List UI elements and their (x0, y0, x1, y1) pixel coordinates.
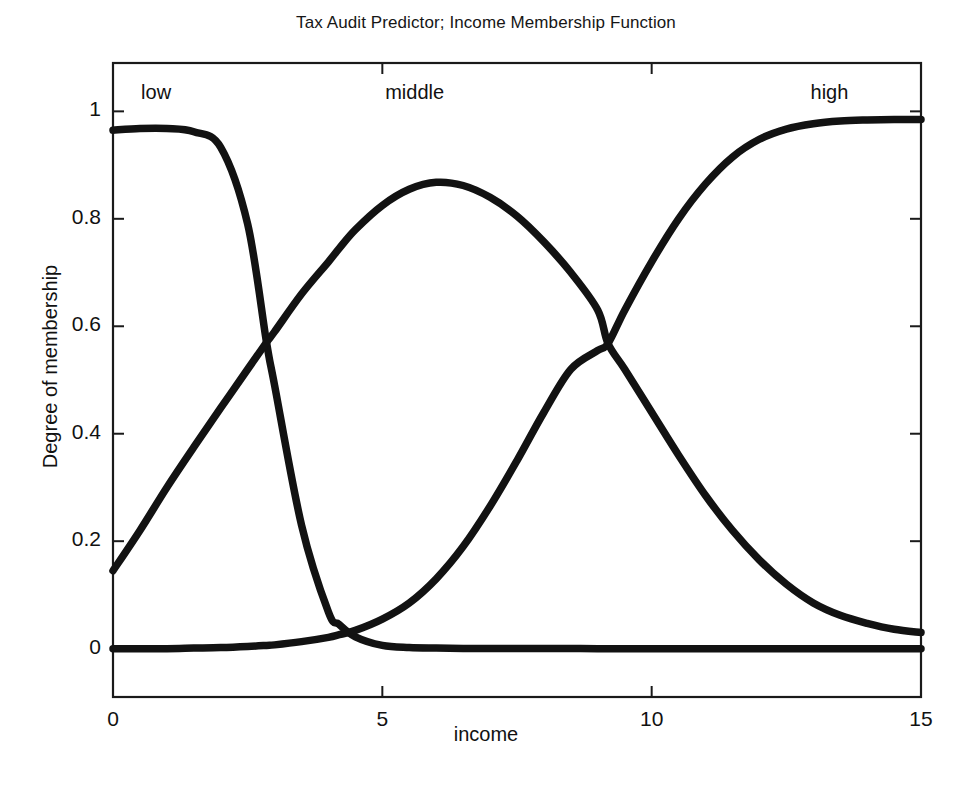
y-tick-label: 0.2 (13, 527, 101, 551)
curve-middle (113, 182, 921, 632)
x-tick-marks (113, 63, 921, 697)
y-tick-label: 1 (13, 97, 101, 121)
annotation-middle: middle (370, 81, 460, 104)
curves-group (113, 119, 921, 648)
axes-frame (113, 63, 921, 697)
x-axis-label: income (0, 723, 972, 746)
annotation-high: high (784, 81, 874, 104)
axes-box (113, 63, 921, 697)
plot-area (0, 0, 972, 789)
y-tick-label: 0 (13, 635, 101, 659)
annotation-low: low (111, 81, 201, 104)
chart-figure: Tax Audit Predictor; Income Membership F… (0, 0, 972, 789)
y-tick-marks (113, 111, 921, 648)
y-axis-label: Degree of membership (39, 207, 62, 527)
